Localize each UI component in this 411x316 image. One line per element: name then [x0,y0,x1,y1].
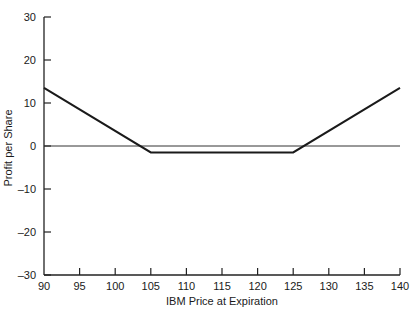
y-axis-label: Profit per Share [2,109,14,186]
y-tick-label: –20 [18,226,36,238]
x-tick-label: 100 [106,280,124,292]
x-tick-label: 130 [320,280,338,292]
x-tick-label: 115 [213,280,231,292]
x-tick-label: 125 [284,280,302,292]
x-tick-label: 120 [248,280,266,292]
y-tick-label: –30 [18,269,36,281]
y-tick-label: 20 [24,54,36,66]
payoff-chart: 3020100–10–20–30909510010511011512012513… [0,0,411,316]
y-tick-label: 10 [24,97,36,109]
x-tick-label: 105 [142,280,160,292]
payoff-line [44,88,400,153]
y-tick-label: 30 [24,11,36,23]
x-axis-label: IBM Price at Expiration [166,295,278,307]
y-tick-label: 0 [30,140,36,152]
x-tick-label: 95 [73,280,85,292]
x-tick-label: 110 [178,280,196,292]
series-lines [44,88,400,153]
y-tick-label: –10 [18,183,36,195]
x-tick-label: 140 [391,280,409,292]
x-tick-label: 135 [355,280,373,292]
x-tick-label: 90 [38,280,50,292]
